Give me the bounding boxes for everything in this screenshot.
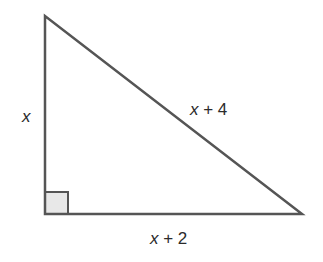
bottom-side-label: x + 2 bbox=[149, 229, 187, 248]
bottom-var: x bbox=[149, 229, 159, 248]
right-triangle-diagram: x x + 4 x + 2 bbox=[0, 0, 323, 262]
hypotenuse-label: x + 4 bbox=[189, 100, 227, 119]
right-angle-marker bbox=[45, 192, 68, 214]
triangle-outline bbox=[45, 16, 302, 214]
hypotenuse-rest: + 4 bbox=[199, 100, 228, 119]
bottom-rest: + 2 bbox=[159, 229, 188, 248]
left-side-label: x bbox=[21, 107, 31, 126]
hypotenuse-var: x bbox=[189, 100, 199, 119]
